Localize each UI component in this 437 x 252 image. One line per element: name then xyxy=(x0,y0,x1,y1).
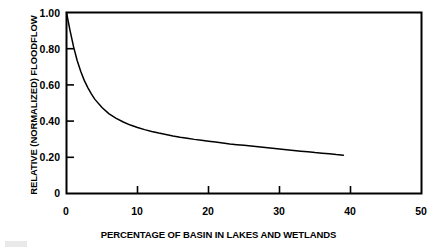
x-axis-ticks xyxy=(138,186,351,194)
figure: RELATIVE (NORMALIZED) FLOODFLOW 1.00 0.8… xyxy=(0,0,437,252)
plot-area xyxy=(0,0,437,252)
plot-frame xyxy=(67,13,422,194)
data-series-line xyxy=(67,13,344,156)
y-axis-ticks xyxy=(67,49,75,158)
scan-artifact xyxy=(5,241,27,247)
